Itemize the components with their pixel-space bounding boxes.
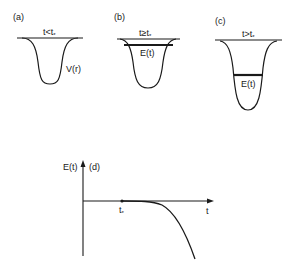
y-axis-arrow-icon (81, 160, 86, 167)
panel-d-plot: E(t) (d) t t* (63, 160, 214, 259)
x-axis-arrow-icon (207, 199, 214, 204)
t-star-label: t* (119, 205, 125, 216)
energy-curve (122, 201, 195, 259)
energy-level-label: E(t) (241, 79, 256, 89)
panel-b: (b) t≥t* E(t) (114, 12, 180, 88)
potential-well-curve (22, 38, 78, 84)
panel-a-tag: (a) (13, 12, 24, 22)
energy-level-label: E(t) (140, 48, 155, 58)
panel-c: (c) t>t* E(t) (215, 16, 282, 110)
panel-b-condition: t≥t* (139, 28, 152, 39)
potential-label: V(r) (66, 64, 81, 74)
panel-c-condition: t>t* (242, 29, 255, 40)
diagram-canvas: (a) t<t* V(r) (b) t≥t* E(t) (c) t>t* E(t… (0, 0, 294, 266)
panel-a-condition: t<t* (43, 27, 56, 38)
panel-c-tag: (c) (215, 16, 226, 26)
panel-a: (a) t<t* V(r) (13, 12, 83, 84)
panel-b-tag: (b) (114, 12, 125, 22)
x-axis-label: t (206, 206, 209, 216)
y-axis-label: E(t) (63, 162, 78, 172)
potential-well-curve (120, 39, 176, 88)
panel-d-tag: (d) (89, 162, 100, 172)
